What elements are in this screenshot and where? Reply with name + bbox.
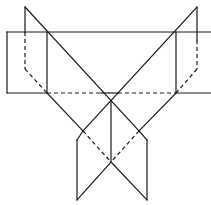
diag-left-lower-line — [47, 93, 83, 131]
folded-net-diagram — [0, 0, 211, 205]
diag-left-long-line — [25, 7, 139, 131]
left-flap-dash-diag-line — [25, 69, 47, 93]
solid-fold-lines — [7, 7, 211, 200]
bottom-right-edge-top-line — [139, 131, 147, 140]
bottom-dash-left-line — [83, 131, 111, 162]
bottom-v-right-line — [111, 162, 147, 200]
bottom-left-edge-top-line — [77, 131, 83, 140]
bottom-dash-right-line — [111, 131, 139, 162]
bottom-v-left-line — [77, 162, 111, 200]
diag-right-lower-line — [139, 93, 176, 131]
diag-right-long-line — [83, 7, 197, 131]
right-flap-dash-diag-line — [176, 69, 197, 93]
